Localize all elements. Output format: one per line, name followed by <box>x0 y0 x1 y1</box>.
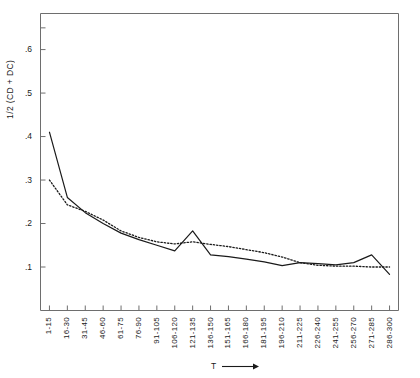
y-tick-label: .5 <box>14 89 32 98</box>
x-tick-label: 211-225 <box>295 317 305 348</box>
x-tick-label: 46-60 <box>98 317 108 339</box>
x-tick-label: 76-90 <box>134 317 144 339</box>
x-tick-label: 136-150 <box>206 317 216 348</box>
x-tick-label: 196-210 <box>277 317 287 348</box>
x-tick-label: 91-105 <box>152 317 162 344</box>
x-tick-label: 241-255 <box>331 317 341 348</box>
x-tick-label: 16-30 <box>62 317 72 339</box>
x-tick-label: 121-135 <box>188 317 198 348</box>
x-tick-label: 166-180 <box>241 317 251 348</box>
x-tick-label: 271-285 <box>367 317 377 348</box>
x-tick-label: 31-45 <box>80 317 90 339</box>
y-tick-label: .1 <box>14 263 32 272</box>
arrow-right-icon <box>222 362 260 371</box>
x-tick-label: 256-270 <box>349 317 359 348</box>
x-tick-label: 61-75 <box>116 317 126 339</box>
series-line-dotted <box>49 180 389 267</box>
x-tick-label: 226-240 <box>313 317 323 348</box>
x-tick-label: 106-120 <box>170 317 180 348</box>
x-tick-label: 286-300 <box>385 317 395 348</box>
series-line-solid <box>49 132 389 274</box>
chart-figure: 1/2 (CD + DC) .1.2.3.4.5.6 1-1516-3031-4… <box>0 0 420 378</box>
x-tick-label: 151-165 <box>223 317 233 348</box>
y-tick-label: .3 <box>14 176 32 185</box>
y-tick-label: .4 <box>14 132 32 141</box>
x-axis-title-text: T <box>211 361 217 371</box>
x-tick-label: 1-15 <box>44 317 54 334</box>
y-tick-label: .2 <box>14 219 32 228</box>
x-tick-label: 181-195 <box>259 317 269 348</box>
y-tick-label: .6 <box>14 45 32 54</box>
x-axis-title: T <box>211 361 260 371</box>
